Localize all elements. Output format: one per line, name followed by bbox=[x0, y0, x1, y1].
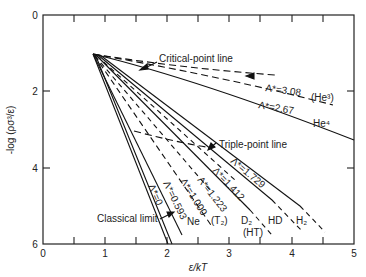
hd-label: HD bbox=[268, 215, 282, 226]
phase-diagram-chart: 0 1 2 3 4 5 0 2 4 6 ε/kT -log (ρσ³/ε) bbox=[0, 0, 366, 277]
x-tick-label: 1 bbox=[102, 248, 108, 259]
x-axis-label: ε/kT bbox=[189, 262, 208, 273]
he4-name-label: He⁴ bbox=[313, 118, 330, 129]
x-tick-label: 4 bbox=[289, 248, 295, 259]
y-axis-label: -log (ρσ³/ε) bbox=[5, 106, 16, 155]
y-tick-label: 2 bbox=[32, 86, 38, 97]
he3-marker bbox=[246, 73, 254, 79]
ne-label: Ne bbox=[187, 216, 200, 227]
ht-label: (HT) bbox=[243, 227, 263, 238]
x-tick-label: 0 bbox=[40, 248, 46, 259]
critical-point-label: Critical-point line bbox=[159, 53, 233, 64]
x-tick-label: 3 bbox=[226, 248, 232, 259]
he3-lambda-label: Λ*=3.08 bbox=[265, 82, 302, 98]
y-tick-label: 0 bbox=[32, 10, 38, 21]
y-tick-label: 4 bbox=[32, 163, 38, 174]
triple-point-line bbox=[134, 131, 212, 148]
x-tick-label: 2 bbox=[164, 248, 170, 259]
h2-label: H₂ bbox=[296, 215, 307, 226]
d2-label: D₂ bbox=[241, 215, 252, 226]
y-tick-label: 6 bbox=[32, 239, 38, 250]
curve-ne bbox=[93, 54, 182, 235]
t2-label: (T₂) bbox=[211, 215, 228, 226]
classical-limit-label: Classical limit bbox=[97, 213, 158, 224]
he4-lambda-label: Λ*=2.67 bbox=[258, 99, 296, 116]
triple-point-label: Triple-point line bbox=[219, 139, 287, 150]
he3-name-label: (He³) bbox=[311, 92, 334, 103]
x-tick-label: 5 bbox=[351, 248, 357, 259]
